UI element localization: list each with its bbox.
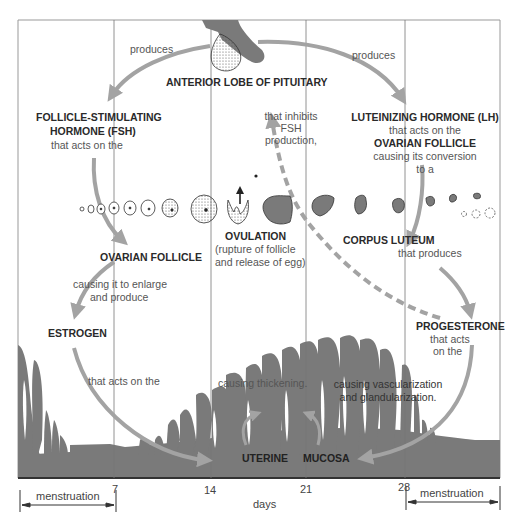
follicle-development-row bbox=[80, 195, 217, 223]
progesterone-title: PROGESTERONE bbox=[416, 320, 505, 332]
tick-day-28: 28 bbox=[398, 481, 410, 493]
pituitary-label: ANTERIOR LOBE OF PITUITARY bbox=[166, 76, 328, 88]
progesterone-effect1: causing vascularization bbox=[318, 378, 458, 390]
progesterone-effect2: and glandularization. bbox=[318, 391, 458, 403]
lh-title: LUTEINIZING HORMONE (LH) bbox=[340, 111, 510, 123]
follicle-title: OVARIAN FOLLICLE bbox=[100, 251, 202, 263]
estrogen-effect: causing thickening. bbox=[218, 377, 307, 389]
arrow-lh-to-corpus-luteum bbox=[410, 165, 423, 240]
arrow-corpus-to-progesterone bbox=[440, 268, 470, 312]
arrow-fsh-to-follicle bbox=[94, 158, 122, 240]
progesterone-desc2: on the bbox=[433, 345, 462, 357]
menstruation-label-left: menstruation bbox=[36, 490, 100, 502]
follicle-desc1: causing it to enlarge bbox=[73, 278, 167, 290]
inhibit-line2: FSH bbox=[256, 122, 326, 134]
lh-desc3: to a bbox=[340, 163, 510, 175]
ovulation-desc1: (rupture of follicle bbox=[215, 243, 296, 255]
uterine-label: UTERINE bbox=[242, 452, 288, 464]
inhibit-line1: that inhibits bbox=[256, 110, 326, 122]
follicle-desc2: and produce bbox=[90, 291, 148, 303]
fsh-desc: that acts on the bbox=[51, 139, 123, 151]
estrogen-desc: that acts on the bbox=[88, 375, 160, 387]
tick-day-14: 14 bbox=[204, 484, 216, 496]
menstrual-cycle-diagram: produces produces ANTERIOR LOBE OF PITUI… bbox=[0, 0, 517, 526]
lh-target: OVARIAN FOLLICLE bbox=[340, 137, 510, 149]
inhibit-line3: production, bbox=[256, 134, 326, 146]
lh-desc2: causing its conversion bbox=[340, 150, 510, 162]
degenerating-follicles bbox=[462, 208, 496, 218]
produces-label-left: produces bbox=[130, 43, 173, 55]
corpus-luteum-stages bbox=[263, 193, 481, 224]
ovulation-title: OVULATION bbox=[225, 230, 286, 242]
progesterone-desc1: that acts bbox=[430, 333, 470, 345]
tick-day-21: 21 bbox=[300, 483, 312, 495]
ovulation-rupture bbox=[227, 174, 257, 224]
lh-desc1: that acts on the bbox=[340, 124, 510, 136]
estrogen-title: ESTROGEN bbox=[48, 327, 107, 339]
ovulation-desc2: and release of egg) bbox=[215, 256, 305, 268]
menstruation-label-right: menstruation bbox=[420, 487, 484, 499]
corpus-luteum-desc: that produces bbox=[398, 247, 462, 259]
fsh-title-line1: FOLLICLE-STIMULATING bbox=[36, 111, 162, 123]
produces-label-right: produces bbox=[352, 49, 395, 61]
tick-day-7: 7 bbox=[112, 483, 118, 495]
axis-label-days: days bbox=[253, 498, 276, 510]
fsh-title-line2: HORMONE (FSH) bbox=[50, 125, 136, 137]
mucosa-label: MUCOSA bbox=[303, 452, 350, 464]
corpus-luteum-title: CORPUS LUTEUM bbox=[343, 234, 435, 246]
